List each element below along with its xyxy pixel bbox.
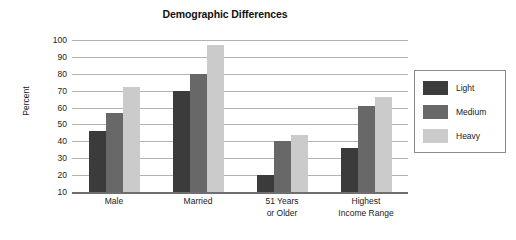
bar: [89, 131, 106, 192]
legend-swatch-icon: [423, 81, 448, 95]
legend-item-heavy[interactable]: Heavy: [423, 127, 498, 144]
bars-layer: [72, 40, 408, 192]
bar: [358, 106, 375, 192]
x-axis-label-line: or Older: [240, 208, 324, 220]
bar: [207, 45, 224, 192]
y-tick-label-80: 80: [58, 69, 67, 79]
y-tick-label-100: 100: [53, 35, 67, 45]
bar: [341, 148, 358, 192]
y-tick-label-10: 10: [58, 187, 67, 197]
gridline-10: 10: [72, 192, 408, 194]
x-axis-label-line: Male: [72, 196, 156, 208]
legend-item-light[interactable]: Light: [423, 79, 498, 96]
bar: [190, 74, 207, 192]
y-tick-label-50: 50: [58, 119, 67, 129]
x-axis-label: 51 Yearsor Older: [240, 196, 324, 219]
bar-group: [173, 40, 224, 192]
y-tick-label-70: 70: [58, 86, 67, 96]
bar-group: [341, 40, 392, 192]
plot-area: 102030405060708090100: [72, 40, 408, 192]
legend-label: Medium: [456, 107, 486, 117]
bar: [257, 175, 274, 192]
bar: [375, 97, 392, 192]
legend-label: Heavy: [456, 131, 480, 141]
y-tick-label-40: 40: [58, 136, 67, 146]
x-axis-label: Male: [72, 196, 156, 208]
legend: LightMediumHeavy: [414, 70, 506, 153]
chart-title: Demographic Differences: [0, 8, 450, 20]
y-tick-label-30: 30: [58, 153, 67, 163]
y-tick-label-20: 20: [58, 170, 67, 180]
bar: [274, 141, 291, 192]
bar: [291, 135, 308, 192]
x-axis-label-line: Highest: [324, 196, 408, 208]
legend-item-medium[interactable]: Medium: [423, 103, 498, 120]
bar: [123, 87, 140, 192]
x-axis-label-line: Income Range: [324, 208, 408, 220]
x-axis-label-line: 51 Years: [240, 196, 324, 208]
bar: [106, 113, 123, 192]
bar-group: [257, 40, 308, 192]
x-axis-label: HighestIncome Range: [324, 196, 408, 219]
bar: [173, 91, 190, 192]
legend-swatch-icon: [423, 129, 448, 143]
x-axis-labels: MaleMarried51 Yearsor OlderHighestIncome…: [72, 196, 408, 236]
x-axis-label-line: Married: [156, 196, 240, 208]
x-axis-label: Married: [156, 196, 240, 208]
bar-group: [89, 40, 140, 192]
y-tick-label-90: 90: [58, 52, 67, 62]
y-axis-title: Percent: [21, 71, 31, 131]
bar-chart: Demographic Differences Percent 10203040…: [0, 0, 516, 240]
legend-swatch-icon: [423, 105, 448, 119]
legend-label: Light: [456, 83, 474, 93]
y-tick-label-60: 60: [58, 103, 67, 113]
